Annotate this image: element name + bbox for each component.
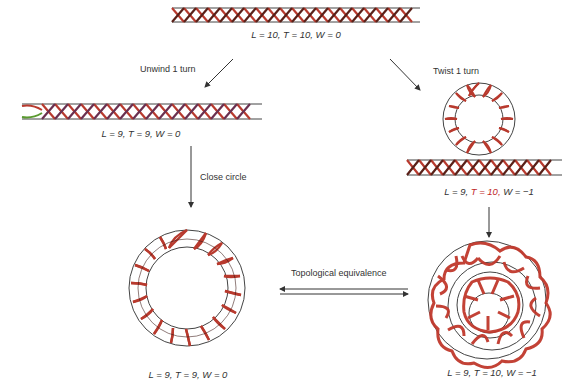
linking-number: L = 9, [444, 186, 468, 197]
twist-number: T = 10, [283, 29, 313, 40]
close-circle-label: Close circle [200, 172, 247, 182]
twist-number: T = 10, [474, 367, 504, 378]
twist-label: Twist 1 turn [433, 66, 479, 76]
twist-number: T = 10, [471, 186, 501, 197]
equivalence-label: Topological equivalence [291, 268, 387, 278]
unwound-linear-helix [22, 104, 262, 119]
twist-arrow [390, 59, 420, 90]
twisted-helix-with-loop [407, 83, 562, 175]
linking-number: L = 9, [447, 367, 471, 378]
equivalence-arrows [280, 289, 408, 294]
linking-number: L = 9, [102, 128, 126, 139]
writhe-number: W = 0 [316, 29, 341, 40]
linking-number: L = 10, [251, 29, 280, 40]
linking-number: L = 9, [149, 369, 173, 380]
relaxed-circular-helix [129, 230, 245, 346]
unwound-equation: L = 9, T = 9, W = 0 [102, 128, 181, 139]
unwind-label: Unwind 1 turn [140, 64, 196, 74]
top-equation: L = 10, T = 10, W = 0 [251, 29, 340, 40]
top-linear-helix [172, 8, 420, 22]
writhe-number: W = 0 [202, 369, 227, 380]
twist-number: T = 9, [128, 128, 153, 139]
twisted-equation: L = 9, T = 10, W = −1 [444, 186, 534, 197]
writhe-number: W = −1 [503, 186, 534, 197]
supercoiled-circular-helix [428, 241, 550, 368]
supercoiled-equation: L = 9, T = 10, W = −1 [447, 367, 537, 378]
unwind-arrow [205, 59, 233, 87]
writhe-number: W = −1 [506, 367, 537, 378]
writhe-number: W = 0 [155, 128, 180, 139]
relaxed-circle-equation: L = 9, T = 9, W = 0 [149, 369, 228, 380]
twist-number: T = 9, [175, 369, 200, 380]
